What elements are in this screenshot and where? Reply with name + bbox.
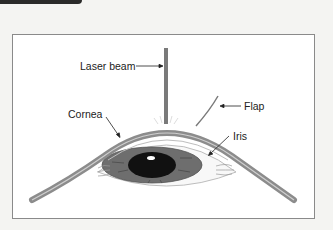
label-laser-beam: Laser beam [80, 61, 135, 72]
eye-diagram [0, 0, 333, 230]
flap [196, 96, 218, 126]
pupil-highlight [147, 156, 155, 160]
pupil [128, 152, 176, 178]
laser-beam [164, 48, 168, 124]
label-flap: Flap [244, 101, 264, 112]
label-cornea: Cornea [68, 109, 102, 120]
label-iris: Iris [233, 131, 247, 142]
